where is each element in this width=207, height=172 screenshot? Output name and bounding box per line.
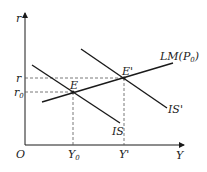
tick-label-r0: r0: [14, 86, 24, 100]
is-prime-curve-label: IS': [167, 103, 183, 116]
lm-curve-label: LM(P0): [159, 50, 199, 64]
diagram-canvas: r Y O r r0 Y0 Y' E E' LM(P0) IS IS': [0, 0, 207, 172]
is-curve-label: IS: [111, 125, 124, 138]
point-e-prime-label: E': [121, 65, 133, 78]
is-curve: [32, 65, 120, 123]
point-e-label: E: [69, 79, 78, 92]
y-axis-label: r: [16, 12, 22, 25]
origin-label: O: [16, 148, 25, 161]
lm-curve: [42, 63, 173, 102]
is-lm-diagram: r Y O r r0 Y0 Y' E E' LM(P0) IS IS': [0, 0, 207, 172]
x-axis-label: Y: [176, 149, 185, 162]
tick-label-r: r: [16, 72, 22, 85]
tick-label-y-prime: Y': [119, 148, 129, 161]
tick-label-y0: Y0: [68, 148, 80, 162]
